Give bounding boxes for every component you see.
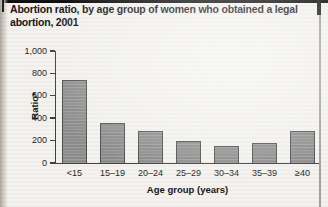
x-tick-label: 20–24 xyxy=(132,168,170,178)
bar-15–19 xyxy=(100,123,125,163)
y-tick-mark xyxy=(50,117,55,118)
plot-area: Ratio* 02004006008001,000 <1515–1920–242… xyxy=(55,51,319,164)
x-axis-label: Age group (years) xyxy=(56,184,319,195)
x-tick-label: 15–19 xyxy=(94,168,132,178)
y-tick-label: 600 xyxy=(12,90,47,100)
x-tick-label: 30–34 xyxy=(208,168,246,178)
y-tick-label: 800 xyxy=(12,68,47,78)
y-tick-label: 200 xyxy=(12,135,47,145)
x-tick-label: 25–29 xyxy=(170,168,208,178)
bar-≥40 xyxy=(290,131,315,163)
chart-title: Abortion ratio, by age group of women wh… xyxy=(10,3,310,29)
bar-25–29 xyxy=(176,141,201,163)
bar-30–34 xyxy=(214,146,239,163)
y-tick-mark xyxy=(50,162,55,163)
x-tick-label: 35–39 xyxy=(246,168,284,178)
bar-35–39 xyxy=(252,143,277,163)
x-tick-label: <15 xyxy=(56,168,94,178)
y-tick-mark xyxy=(50,95,55,96)
bar-20–24 xyxy=(138,131,163,163)
y-tick-mark xyxy=(50,73,55,74)
y-tick-mark xyxy=(50,50,55,51)
y-tick-label: 1,000 xyxy=(12,46,47,56)
frame-corner-right xyxy=(317,0,321,15)
figure-abortion-ratio-chart: Abortion ratio, by age group of women wh… xyxy=(0,0,328,207)
y-axis-label: Ratio* xyxy=(29,76,41,136)
y-tick-label: 0 xyxy=(12,158,47,168)
bar-<15 xyxy=(62,80,87,163)
page-left-shadow xyxy=(0,0,8,207)
y-tick-label: 400 xyxy=(12,113,47,123)
x-tick-label: ≥40 xyxy=(284,168,322,178)
frame-corner-left xyxy=(2,0,4,12)
y-tick-mark xyxy=(50,140,55,141)
